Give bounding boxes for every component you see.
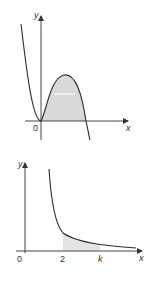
cubic-curve	[21, 24, 90, 140]
reciprocal-origin-label: 0	[17, 254, 22, 264]
tick-label-2: 2	[60, 254, 65, 264]
tick-label-k: k	[98, 254, 103, 264]
cubic-y-label: y	[33, 10, 39, 20]
reciprocal-graph: y x 0 2 k	[16, 159, 144, 264]
cubic-shaded-region	[41, 75, 86, 121]
cubic-x-label: x	[125, 123, 131, 133]
cubic-origin-label: 0	[33, 123, 38, 133]
reciprocal-x-label: x	[138, 253, 144, 263]
figure-canvas: y x 0 y x 0 2 k	[0, 0, 153, 281]
reciprocal-curve	[49, 169, 136, 248]
cubic-graph: y x 0	[21, 10, 131, 140]
reciprocal-y-label: y	[17, 159, 23, 169]
